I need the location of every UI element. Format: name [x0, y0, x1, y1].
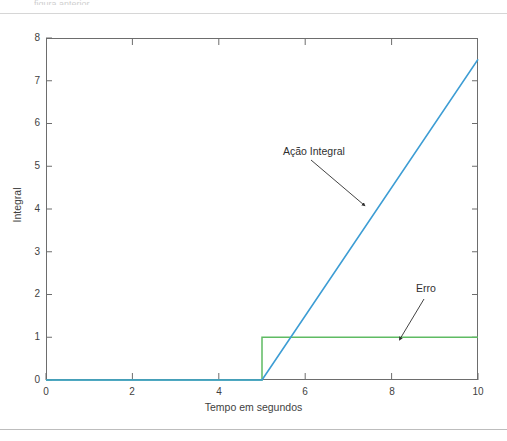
chart-figure: 0 1 2 3 4 5 6 7 8 0 2 4 6 8 10 Tempo em … [0, 18, 507, 423]
plot-area [46, 38, 478, 380]
y-tick-label-3: 3 [14, 247, 40, 257]
x-tick-label-4: 4 [204, 387, 234, 397]
y-tick-label-6: 6 [14, 118, 40, 128]
page-canvas: figura anterior [0, 0, 507, 441]
x-tick-label-0: 0 [31, 387, 61, 397]
y-tick-label-8: 8 [14, 33, 40, 43]
x-tick-label-6: 6 [290, 387, 320, 397]
page-rule-bottom [0, 429, 507, 430]
annotation-label-erro: Erro [416, 283, 436, 294]
x-tick-label-10: 10 [463, 387, 493, 397]
y-tick-label-7: 7 [14, 76, 40, 86]
caption-remnant-text: figura anterior [34, 0, 244, 5]
y-tick-label-1: 1 [14, 332, 40, 342]
x-axis-ticks [46, 38, 478, 380]
series-line-erro [46, 337, 478, 380]
y-tick-label-0: 0 [14, 375, 40, 385]
y-tick-label-5: 5 [14, 161, 40, 171]
page-rule-top [0, 13, 507, 14]
x-tick-label-2: 2 [117, 387, 147, 397]
x-axis-title: Tempo em segundos [0, 401, 507, 413]
y-tick-label-2: 2 [14, 289, 40, 299]
y-axis-title: Integral [11, 175, 23, 235]
y-axis-ticks [46, 38, 478, 380]
x-tick-label-8: 8 [377, 387, 407, 397]
series-line-acao-integral [46, 59, 478, 380]
annotation-label-acao-integral: Ação Integral [283, 146, 345, 157]
